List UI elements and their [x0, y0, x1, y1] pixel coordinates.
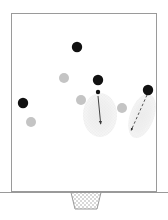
dark-team-player[interactable] [143, 85, 153, 95]
dark-team-player[interactable] [72, 42, 82, 52]
goal-net-shape [71, 193, 101, 210]
dark-team-player[interactable] [18, 98, 28, 108]
soccer-scene-svg [0, 0, 168, 220]
dark-team-player[interactable] [93, 75, 103, 85]
header-text [0, 0, 168, 10]
light-team-player[interactable] [26, 117, 36, 127]
figure-canvas [0, 0, 168, 220]
light-team-player[interactable] [59, 73, 69, 83]
light-team-player[interactable] [76, 95, 86, 105]
ball-marker[interactable] [96, 90, 100, 94]
goal-net [71, 193, 101, 210]
light-team-player[interactable] [117, 103, 127, 113]
